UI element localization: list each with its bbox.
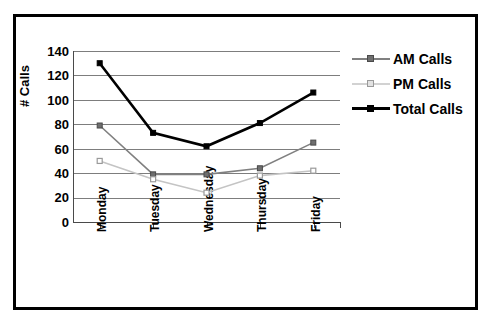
y-axis-title: # Calls [17,65,32,107]
legend-swatch-am-calls [352,53,390,65]
legend-entry-pm-calls[interactable]: PM Calls [352,71,472,96]
x-axis-tick [340,223,341,228]
y-tick-label-120: 120 [47,69,69,82]
chart-legend: AM Calls PM Calls Total Calls [352,46,472,121]
chart-figure: 140 120 100 80 60 40 20 0 # Calls Monday… [0,0,492,326]
x-tick-label-tuesday: Tuesday [148,184,162,232]
x-tick-label-thursday: Thursday [255,178,269,232]
y-tick-label-140: 140 [47,45,69,58]
legend-entry-am-calls[interactable]: AM Calls [352,46,472,71]
y-tick-label-40: 40 [55,167,69,180]
legend-swatch-pm-calls [352,78,390,90]
x-tick-label-wednesday: Wednesday [202,166,216,232]
x-tick-label-monday: Monday [95,187,109,232]
y-tick-label-100: 100 [47,94,69,107]
gridline-100 [73,100,340,101]
legend-label-am-calls: AM Calls [393,51,452,67]
x-tick-label-friday: Friday [309,196,323,232]
gridline-80 [73,124,340,125]
y-tick-label-60: 60 [55,143,69,156]
legend-entry-total-calls[interactable]: Total Calls [352,96,472,121]
gridline-120 [73,75,340,76]
y-tick-label-0: 0 [62,216,69,229]
y-tick-label-20: 20 [55,191,69,204]
legend-label-total-calls: Total Calls [393,101,463,117]
legend-label-pm-calls: PM Calls [393,76,451,92]
y-axis-line [73,51,74,223]
gridline-140 [73,51,340,52]
y-tick-label-80: 80 [55,118,69,131]
gridline-60 [73,149,340,150]
y-axis-tick-labels: 140 120 100 80 60 40 20 0 [26,0,69,326]
legend-swatch-total-calls [352,103,390,115]
